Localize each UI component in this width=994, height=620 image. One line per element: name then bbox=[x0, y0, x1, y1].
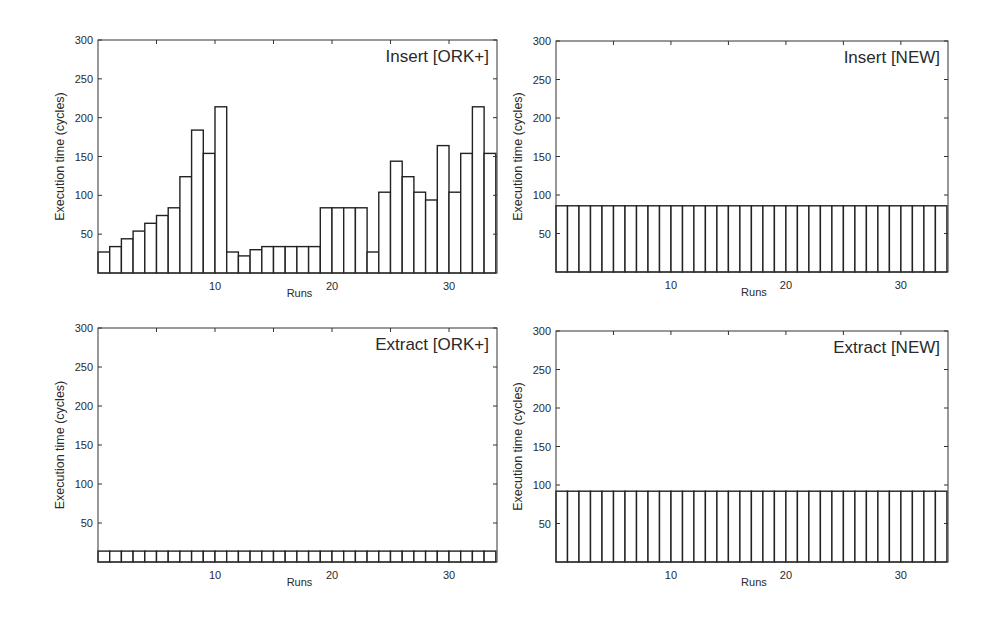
y-axis-label: Execution time (cycles) bbox=[511, 382, 525, 511]
bar bbox=[740, 491, 752, 562]
bar bbox=[912, 491, 924, 562]
x-tick-label: 10 bbox=[665, 569, 677, 581]
bar bbox=[797, 491, 809, 562]
y-tick-label: 250 bbox=[533, 364, 551, 376]
bar bbox=[924, 491, 936, 562]
bar bbox=[591, 491, 603, 562]
y-tick-label: 50 bbox=[539, 518, 551, 530]
bar bbox=[579, 491, 591, 562]
bar bbox=[751, 491, 763, 562]
bar bbox=[637, 491, 649, 562]
bar bbox=[774, 491, 786, 562]
bar bbox=[717, 491, 729, 562]
chart-extract-new: 50100150200250300102030RunsExecution tim… bbox=[0, 0, 994, 620]
bar bbox=[728, 491, 740, 562]
bar bbox=[901, 491, 913, 562]
bar bbox=[820, 491, 832, 562]
x-tick-label: 20 bbox=[780, 569, 792, 581]
bar bbox=[763, 491, 775, 562]
bar bbox=[614, 491, 626, 562]
bar bbox=[568, 491, 580, 562]
x-axis-label: Runs bbox=[741, 576, 767, 588]
y-tick-label: 150 bbox=[533, 441, 551, 453]
bar bbox=[705, 491, 717, 562]
y-tick-label: 100 bbox=[533, 479, 551, 491]
bar bbox=[602, 491, 614, 562]
bar bbox=[683, 491, 695, 562]
y-tick-label: 300 bbox=[533, 325, 551, 337]
bar bbox=[843, 491, 855, 562]
bar bbox=[694, 491, 706, 562]
bar bbox=[935, 491, 947, 562]
bar bbox=[889, 491, 901, 562]
bar bbox=[556, 491, 568, 562]
bar bbox=[878, 491, 890, 562]
x-tick-label: 30 bbox=[895, 569, 907, 581]
bar bbox=[648, 491, 660, 562]
bars bbox=[556, 491, 947, 562]
bar bbox=[671, 491, 683, 562]
bar bbox=[832, 491, 844, 562]
chart-title: Extract [NEW] bbox=[833, 338, 940, 357]
y-tick-label: 200 bbox=[533, 402, 551, 414]
bar bbox=[866, 491, 878, 562]
chart-svg: 50100150200250300102030RunsExecution tim… bbox=[0, 0, 994, 620]
bar bbox=[786, 491, 798, 562]
bar bbox=[660, 491, 672, 562]
bar bbox=[855, 491, 867, 562]
bar bbox=[625, 491, 637, 562]
bar bbox=[809, 491, 821, 562]
